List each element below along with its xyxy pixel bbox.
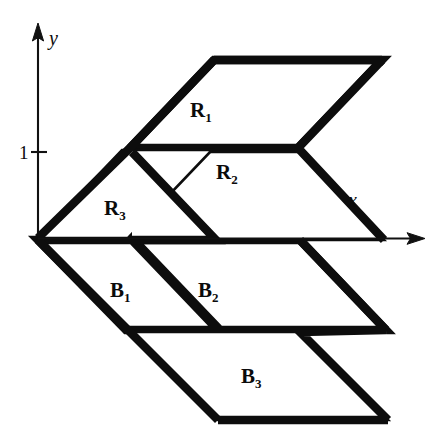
region-label-B2-sub: 2 [212,290,219,305]
region-label-R3-base: R [104,196,120,220]
figure-canvas: y x 1 R1 R2 R3 B1 B2 B3 [0,0,444,446]
region-label-R2-base: R [216,160,232,184]
region-label-R1-sub: 1 [205,110,212,125]
region-label-B1-sub: 1 [124,290,131,305]
region-label-B3-sub: 3 [255,376,262,391]
region-label-R2-sub: 2 [231,172,238,187]
region-label-B3-base: B [241,364,255,388]
y-tick-label-1: 1 [19,142,29,163]
region-label-R3-sub: 3 [119,208,126,223]
y-axis-group [31,23,47,238]
diagram-svg: y x 1 R1 R2 R3 B1 B2 B3 [0,0,444,446]
region-label-B1-base: B [110,278,124,302]
region-label-R1-base: R [190,98,206,122]
x-axis-label: x [347,189,357,211]
y-axis-label: y [47,27,58,50]
region-label-B2-base: B [198,278,212,302]
